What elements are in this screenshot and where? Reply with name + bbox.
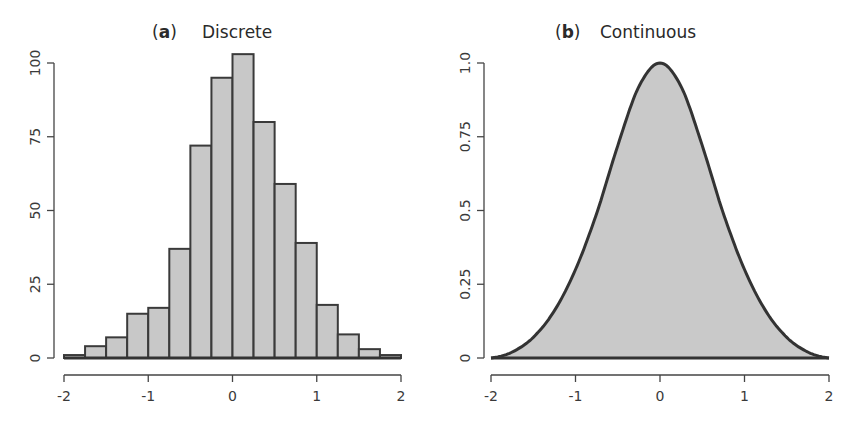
histogram-bar	[296, 243, 317, 358]
histogram-bar	[254, 122, 275, 358]
y-tick-label: 25	[27, 275, 43, 293]
panel-a-title: Discrete	[202, 22, 272, 42]
y-tick-label: 75	[27, 128, 43, 146]
histogram-bar	[233, 54, 254, 358]
x-tick-label: 2	[825, 388, 834, 404]
density-area	[491, 63, 829, 358]
histogram-bar	[211, 78, 232, 358]
y-tick-label: 0	[457, 354, 473, 363]
histogram-bars	[64, 54, 401, 358]
y-tick-label: 50	[27, 202, 43, 220]
panel-discrete: (a) Discrete 0255075100-2-1012	[27, 22, 405, 404]
figure: (a) Discrete 0255075100-2-1012 (b) Conti…	[0, 0, 865, 425]
panel-b-title: Continuous	[600, 22, 696, 42]
panel-b-letter: b	[562, 22, 574, 42]
x-tick-label: -2	[57, 388, 71, 404]
x-tick-label: -1	[141, 388, 155, 404]
x-tick-label: -1	[569, 388, 583, 404]
y-tick-label: 0.75	[457, 121, 473, 152]
histogram-bar	[317, 305, 338, 358]
histogram-bar	[127, 314, 148, 358]
histogram-bar	[106, 337, 127, 358]
y-tick-label: 0.5	[457, 199, 473, 221]
y-tick-label: 0	[27, 354, 43, 363]
x-tick-label: 0	[228, 388, 237, 404]
density-plot	[491, 63, 829, 358]
histogram-bar	[169, 249, 190, 358]
panel-continuous: (b) Continuous 00.250.50.751.0-2-1012	[457, 22, 833, 404]
y-tick-label: 0.25	[457, 269, 473, 300]
y-tick-label: 1.0	[457, 52, 473, 74]
panel-a-label: (a)	[152, 22, 177, 42]
x-tick-label: 0	[656, 388, 665, 404]
histogram-bar	[275, 184, 296, 358]
x-tick-label: -2	[484, 388, 498, 404]
histogram-bar	[338, 334, 359, 358]
panel-a-letter: a	[159, 22, 170, 42]
histogram-bar	[148, 308, 169, 358]
histogram-bar	[85, 346, 106, 358]
x-tick-label: 1	[740, 388, 749, 404]
histogram-bar	[190, 146, 211, 358]
x-tick-label: 2	[397, 388, 406, 404]
panel-b-label: (b)	[555, 22, 580, 42]
y-tick-label: 100	[27, 50, 43, 77]
x-tick-label: 1	[312, 388, 321, 404]
